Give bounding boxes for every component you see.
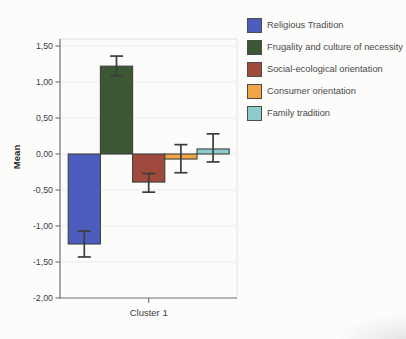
chart-legend: Religious TraditionFrugality and culture… (247, 17, 404, 127)
legend-swatch (247, 62, 262, 77)
legend-label: Social-ecological orientation (267, 61, 383, 75)
chart-figure: 1,501,000,500,00-0,50-1,00-1,50-2,00Clus… (0, 0, 406, 339)
legend-label: Religious Tradition (267, 17, 343, 31)
legend-item: Family tradition (247, 105, 404, 121)
y-tick-label: 0,50 (36, 113, 53, 123)
legend-swatch (247, 106, 262, 121)
legend-swatch (247, 84, 262, 99)
y-tick-label: -0,50 (33, 185, 53, 195)
legend-item: Frugality and culture of necessity (247, 39, 404, 55)
legend-swatch (247, 40, 262, 55)
legend-label: Family tradition (267, 105, 330, 119)
legend-swatch (247, 18, 262, 33)
y-tick-label: 1,00 (36, 77, 53, 87)
legend-item: Social-ecological orientation (247, 61, 404, 77)
legend-label: Consumer orientation (267, 83, 356, 97)
legend-item: Consumer orientation (247, 83, 404, 99)
legend-item: Religious Tradition (247, 17, 404, 33)
y-tick-label: -1,50 (33, 257, 53, 267)
x-category-label: Cluster 1 (130, 307, 168, 318)
bar (100, 66, 132, 154)
legend-label: Frugality and culture of necessity (267, 39, 403, 53)
y-tick-label: 1,50 (36, 41, 53, 51)
y-tick-label: -2,00 (33, 293, 53, 303)
y-axis-title: Mean (11, 145, 22, 170)
y-tick-label: -1,00 (33, 221, 53, 231)
y-tick-label: 0,00 (36, 149, 53, 159)
